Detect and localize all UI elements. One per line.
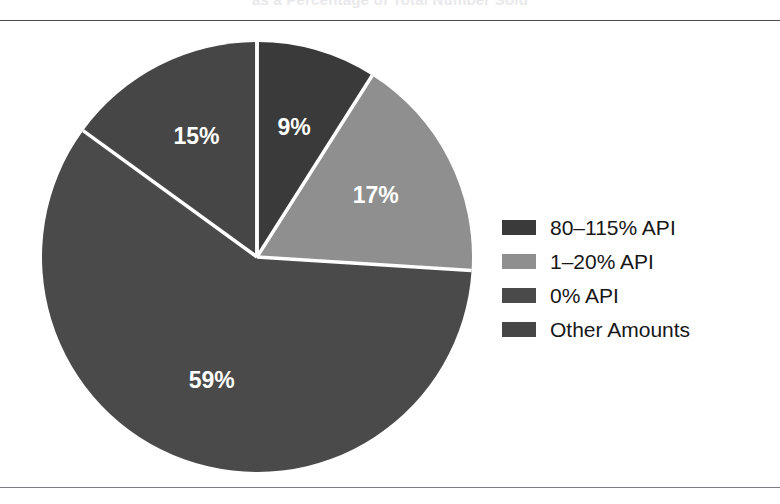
chart-legend: 80–115% API1–20% API0% APIOther Amounts: [502, 210, 752, 346]
pie-slice-value-label: 15%: [173, 123, 219, 149]
legend-item[interactable]: 1–20% API: [502, 244, 752, 278]
legend-item-label: Other Amounts: [550, 319, 690, 340]
pie-slice-value-label: 9%: [278, 114, 311, 140]
legend-swatch-icon: [502, 220, 536, 235]
legend-swatch-icon: [502, 322, 536, 337]
legend-swatch-icon: [502, 254, 536, 269]
pie-slice-value-label: 17%: [353, 182, 399, 208]
legend-swatch-icon: [502, 288, 536, 303]
legend-item[interactable]: 0% API: [502, 278, 752, 312]
legend-item-label: 80–115% API: [550, 217, 676, 238]
pie-slice-value-label: 59%: [189, 367, 235, 393]
legend-item-label: 1–20% API: [550, 251, 654, 272]
legend-item-label: 0% API: [550, 285, 619, 306]
legend-item[interactable]: Other Amounts: [502, 312, 752, 346]
chart-figure: as a Percentage of Total Number Sold 9%1…: [0, 0, 780, 504]
legend-item[interactable]: 80–115% API: [502, 210, 752, 244]
